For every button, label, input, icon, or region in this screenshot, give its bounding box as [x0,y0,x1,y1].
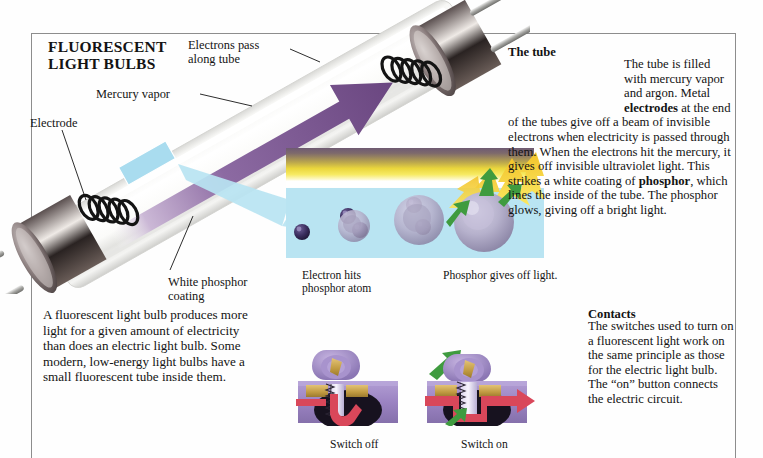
tube-section-body: The tube is filled with mercury vapor an… [508,57,732,218]
label-electrons-pass: Electrons passalong tube [188,38,296,66]
switch-off-diagram [296,348,406,426]
ultraviolet-beam-bar [286,148,534,181]
contacts-section-body: The switches used to turn on a fluoresce… [588,319,734,407]
circuit-wire-left [296,399,326,406]
page-title: FLUORESCENTLIGHT BULBS [48,38,166,72]
tube-text-b2: phosphor [639,174,690,188]
label-phosphor-gives-off-light: Phosphor gives off light. [443,269,593,282]
tube-text-b1: electrodes [624,101,678,115]
label-white-phosphor-coating: White phosphorcoating [168,275,268,303]
switch-on-diagram [425,348,535,426]
frame-right-border [735,33,736,458]
phosphor-atom-inset-panel [286,148,544,258]
label-electron-hits-phosphor-atom: Electron hitsphosphor atom [302,269,402,295]
tube-text-p1: The tube is filled with mercury vapor an… [624,57,724,100]
diagram-page: FLUORESCENTLIGHT BULBS Electrons passalo… [0,0,763,458]
intro-paragraph: A fluorescent light bulb produces more l… [43,307,265,385]
label-electrode: Electrode [30,116,110,130]
label-switch-off: Switch off [330,438,378,451]
label-switch-on: Switch on [461,438,508,451]
label-mercury-vapor: Mercury vapor [96,87,206,101]
